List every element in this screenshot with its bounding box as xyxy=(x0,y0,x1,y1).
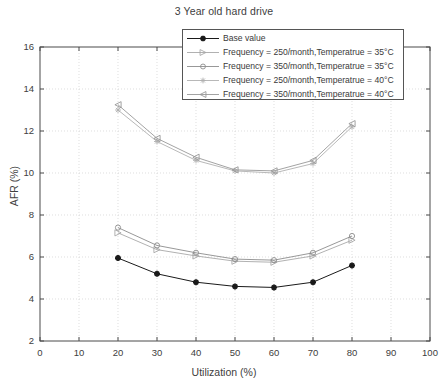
legend-label: Frequency = 250/month,Temperatrue = 40°C xyxy=(223,74,394,87)
y-tick-label: 6 xyxy=(10,251,34,262)
legend-marker-icon xyxy=(183,46,223,59)
legend-marker-icon xyxy=(183,60,223,73)
y-tick-label: 16 xyxy=(10,41,34,52)
x-tick-label: 20 xyxy=(106,347,130,358)
x-tick-label: 100 xyxy=(418,347,442,358)
x-tick-label: 80 xyxy=(340,347,364,358)
x-tick-label: 60 xyxy=(262,347,286,358)
x-tick-label: 90 xyxy=(379,347,403,358)
legend-marker-icon xyxy=(183,88,223,101)
x-tick-label: 50 xyxy=(223,347,247,358)
y-tick-label: 10 xyxy=(10,167,34,178)
x-tick-label: 30 xyxy=(145,347,169,358)
legend-label: Frequency = 250/month,Temperatrue = 35°C xyxy=(223,46,394,59)
legend-item: Base value xyxy=(183,32,403,45)
legend-marker-icon xyxy=(183,74,223,87)
y-tick-label: 4 xyxy=(10,293,34,304)
x-tick-label: 0 xyxy=(28,347,52,358)
legend-label: Frequency = 350/month,Temperatrue = 40°C xyxy=(223,88,394,101)
x-tick-label: 10 xyxy=(67,347,91,358)
legend-label: Base value xyxy=(223,32,266,45)
legend-label: Frequency = 350/month,Temperatrue = 35°C xyxy=(223,60,394,73)
series-3 xyxy=(115,107,355,176)
chart-legend: Base valueFrequency = 250/month,Temperat… xyxy=(182,29,404,100)
y-tick-label: 2 xyxy=(10,335,34,346)
x-tick-label: 70 xyxy=(301,347,325,358)
y-tick-label: 8 xyxy=(10,209,34,220)
legend-item: Frequency = 350/month,Temperatrue = 40°C xyxy=(183,88,403,101)
legend-item: Frequency = 250/month,Temperatrue = 35°C xyxy=(183,46,403,59)
y-tick-label: 14 xyxy=(10,83,34,94)
x-axis-label: Utilization (%) xyxy=(0,366,448,378)
legend-item: Frequency = 350/month,Temperatrue = 35°C xyxy=(183,60,403,73)
legend-item: Frequency = 250/month,Temperatrue = 40°C xyxy=(183,74,403,87)
legend-marker-icon xyxy=(183,32,223,45)
chart-figure: 3 Year old hard drive AFR (%) Utilizatio… xyxy=(0,0,448,387)
y-tick-label: 12 xyxy=(10,125,34,136)
series-1 xyxy=(115,230,355,266)
x-tick-label: 40 xyxy=(184,347,208,358)
